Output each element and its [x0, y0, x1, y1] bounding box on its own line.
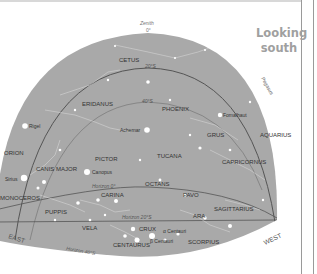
zenith-value: 0° — [146, 27, 151, 33]
label-pegasus: Pegasus — [260, 76, 275, 96]
zenith-label: Zenith — [139, 20, 154, 26]
label-pictor: PICTOR — [95, 156, 118, 162]
label-beta-centauri: β Centauri — [150, 238, 173, 244]
label-canopus: Canopus — [92, 169, 113, 175]
label-crux: CRUX — [139, 226, 156, 232]
star-fomalhaut — [218, 113, 222, 117]
label-grus: GRUS — [207, 132, 224, 138]
label-alpha-centauri: α Centauri — [163, 228, 186, 234]
label-horizon-20: Horizon 20°S — [122, 214, 152, 220]
label-octans: OCTANS — [145, 181, 170, 187]
label-rigel: Rigel — [29, 123, 40, 129]
sky-chart: Zenith 0° CETUS 20°S ERIDANUS 40°S PHOEN… — [0, 0, 317, 274]
label-eridanus: ERIDANUS — [82, 101, 113, 107]
label-fomalhaut: Fomalhaut — [223, 112, 247, 118]
label-phoenix: PHOENIX — [162, 106, 189, 112]
label-vela: VELA — [82, 225, 97, 231]
label-ara: ARA — [193, 213, 205, 219]
star-sirius — [21, 175, 27, 181]
label-aquarius: AQUARIUS — [260, 132, 291, 138]
star-achernar — [144, 127, 150, 133]
label-lat-20: 20°S — [144, 63, 157, 69]
label-canis-major-1: CANIS MAJOR — [36, 166, 78, 172]
label-horizon-0: Horizon 0° — [92, 183, 115, 189]
label-monoceros: MONOCEROS — [0, 195, 40, 201]
label-west: WEST — [262, 232, 282, 246]
label-achernar: Achernar — [120, 127, 141, 133]
star-canopus — [84, 169, 90, 175]
label-sirius: Sirius — [5, 176, 18, 182]
label-lat-40: 40°S — [142, 98, 154, 104]
label-centaurus: CENTAURUS — [113, 242, 150, 248]
label-carina: CARINA — [101, 192, 124, 198]
label-tucana: TUCANA — [157, 153, 182, 159]
star-rigel — [22, 123, 28, 129]
label-orion: ORION — [4, 150, 24, 156]
label-sagittarius: SAGITTARIUS — [214, 206, 254, 212]
label-cetus: CETUS — [119, 57, 139, 63]
label-puppis: PUPPIS — [45, 209, 67, 215]
label-scorpius: SCORPIUS — [188, 239, 219, 245]
label-pavo: PAVO — [183, 192, 199, 198]
label-capricornus: CAPRICORNUS — [222, 159, 266, 165]
